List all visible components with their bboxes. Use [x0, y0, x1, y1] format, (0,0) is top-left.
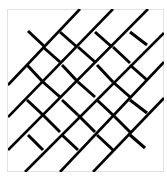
short-segment [95, 32, 112, 47]
line-pattern [0, 0, 167, 183]
short-segment [113, 82, 130, 97]
short-segment [43, 47, 60, 62]
short-segment [130, 32, 147, 45]
long-line [25, 33, 164, 172]
short-segment [62, 135, 78, 150]
short-hatch-segments [27, 31, 147, 150]
short-segment [27, 65, 43, 82]
short-segment [43, 82, 60, 97]
short-segment [28, 31, 45, 47]
long-line [93, 98, 164, 172]
short-segment [78, 47, 95, 62]
short-segment [78, 82, 95, 97]
illusion-figure [0, 0, 167, 183]
short-segment [113, 47, 130, 63]
short-segment [130, 100, 147, 113]
short-segment [62, 65, 78, 82]
short-segment [27, 100, 43, 115]
short-segment [62, 100, 78, 115]
short-segment [113, 115, 130, 132]
short-segment [130, 65, 147, 80]
short-segment [60, 32, 77, 47]
short-segment [78, 115, 95, 132]
short-segment [97, 135, 113, 150]
short-segment [97, 65, 113, 82]
short-segment [130, 135, 145, 148]
short-segment [28, 135, 43, 150]
short-segment [97, 100, 113, 115]
short-segment [43, 115, 60, 132]
